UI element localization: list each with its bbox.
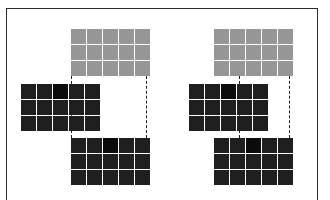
grid-cell xyxy=(119,138,134,153)
grid-cell xyxy=(37,100,52,115)
grid-cell xyxy=(214,45,229,60)
grid-cell xyxy=(262,45,277,60)
grid-cell xyxy=(246,45,261,60)
grid-cell xyxy=(221,116,236,131)
grid-cell xyxy=(87,61,102,76)
grid-cell xyxy=(37,116,52,131)
grid-cell xyxy=(205,100,220,115)
grid-cell xyxy=(262,61,277,76)
grid-cell xyxy=(71,138,86,153)
grid-cell xyxy=(230,154,245,169)
grid-cell xyxy=(87,170,102,185)
grid-cell xyxy=(103,61,118,76)
grid-cell xyxy=(214,29,229,44)
grid-cell xyxy=(278,138,293,153)
grid-cell xyxy=(103,154,118,169)
grid-cell xyxy=(135,61,150,76)
grid-cell xyxy=(214,154,229,169)
grid-cell xyxy=(189,84,204,99)
grid-cell xyxy=(21,100,36,115)
grid-cell xyxy=(85,100,100,115)
grid-cell xyxy=(135,170,150,185)
grid-cell xyxy=(119,29,134,44)
left-middle-dark xyxy=(21,84,100,131)
grid-cell xyxy=(278,61,293,76)
grid-cell xyxy=(246,29,261,44)
grid-cell xyxy=(230,29,245,44)
right-group-right-connector xyxy=(289,76,290,138)
grid-cell xyxy=(119,170,134,185)
grid-cell xyxy=(253,116,268,131)
grid-cell xyxy=(71,29,86,44)
figure-canvas xyxy=(0,0,330,200)
grid-cell xyxy=(37,84,52,99)
grid-cell-highlighted xyxy=(246,138,261,153)
grid-cell xyxy=(69,84,84,99)
grid-cell xyxy=(135,29,150,44)
grid-cell-highlighted xyxy=(103,138,118,153)
grid-cell xyxy=(262,138,277,153)
grid-cell xyxy=(21,84,36,99)
grid-cell xyxy=(205,116,220,131)
right-middle-dark xyxy=(189,84,268,131)
grid-cell xyxy=(189,116,204,131)
grid-cell xyxy=(262,29,277,44)
grid-cell xyxy=(278,170,293,185)
grid-cell xyxy=(230,45,245,60)
grid-cell xyxy=(278,154,293,169)
grid-cell xyxy=(71,154,86,169)
grid-cell xyxy=(87,45,102,60)
grid-cell xyxy=(71,45,86,60)
grid-cell xyxy=(230,61,245,76)
grid-cell xyxy=(246,61,261,76)
grid-cell xyxy=(214,170,229,185)
right-top-gray xyxy=(214,29,293,76)
grid-cell xyxy=(205,84,220,99)
grid-cell xyxy=(246,154,261,169)
figure-frame xyxy=(6,8,318,200)
left-top-gray xyxy=(71,29,150,76)
grid-cell xyxy=(119,154,134,169)
grid-cell xyxy=(237,116,252,131)
grid-cell xyxy=(237,84,252,99)
grid-cell xyxy=(71,170,86,185)
grid-cell xyxy=(119,61,134,76)
grid-cell-highlighted xyxy=(221,84,236,99)
grid-cell xyxy=(103,170,118,185)
left-bottom-dark xyxy=(71,138,150,185)
grid-cell xyxy=(214,138,229,153)
grid-cell xyxy=(135,154,150,169)
grid-cell xyxy=(85,84,100,99)
grid-cell xyxy=(103,29,118,44)
grid-cell xyxy=(119,45,134,60)
grid-cell xyxy=(221,100,236,115)
grid-cell xyxy=(135,45,150,60)
grid-cell xyxy=(69,100,84,115)
grid-cell xyxy=(230,138,245,153)
grid-cell xyxy=(69,116,84,131)
right-bottom-dark xyxy=(214,138,293,185)
grid-cell xyxy=(237,100,252,115)
grid-cell xyxy=(71,61,86,76)
grid-cell xyxy=(230,170,245,185)
grid-cell xyxy=(189,100,204,115)
grid-cell-highlighted xyxy=(53,84,68,99)
grid-cell xyxy=(253,84,268,99)
grid-cell xyxy=(21,116,36,131)
grid-cell xyxy=(278,29,293,44)
grid-cell xyxy=(253,100,268,115)
grid-cell xyxy=(103,45,118,60)
grid-cell xyxy=(53,100,68,115)
grid-cell xyxy=(278,45,293,60)
grid-cell xyxy=(87,29,102,44)
grid-cell xyxy=(262,170,277,185)
grid-cell xyxy=(53,116,68,131)
grid-cell xyxy=(87,138,102,153)
grid-cell xyxy=(85,116,100,131)
grid-cell xyxy=(135,138,150,153)
left-group-right-connector xyxy=(146,76,147,138)
grid-cell xyxy=(214,61,229,76)
grid-cell xyxy=(246,170,261,185)
grid-cell xyxy=(87,154,102,169)
grid-cell xyxy=(262,154,277,169)
